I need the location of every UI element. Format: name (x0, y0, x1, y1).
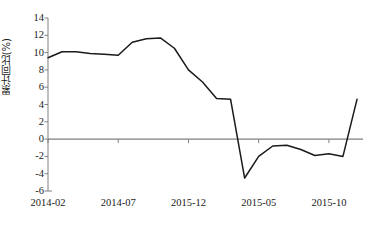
y-tick-label: -4 (20, 169, 44, 179)
y-tick-label: 8 (20, 65, 44, 75)
y-tick-label: -2 (20, 151, 44, 161)
x-tick-label: 2015-10 (297, 197, 361, 208)
x-tick-label: 2015-05 (227, 197, 291, 208)
x-tick-label: 2014-02 (16, 197, 80, 208)
y-tick-label: -6 (20, 186, 44, 196)
y-tick-label: 4 (20, 100, 44, 110)
axes (45, 18, 53, 191)
x-tick-label: 2014-07 (86, 197, 150, 208)
x-tick-label: 2015-12 (156, 197, 220, 208)
zero-baseline (48, 139, 363, 143)
y-tick-label: 0 (20, 134, 44, 144)
y-tick-label: 10 (20, 48, 44, 58)
series-line (48, 38, 357, 178)
y-axis-label: 累计同比(%) (2, 38, 18, 95)
data-series (48, 38, 357, 178)
y-tick-label: 2 (20, 117, 44, 127)
y-tick-label: 12 (20, 30, 44, 40)
figure-caption (0, 218, 370, 231)
y-tick-label: 14 (20, 13, 44, 23)
y-tick-label: 6 (20, 82, 44, 92)
chart-figure: 累计同比(%) 14121086420-2-4-6 2014-022014-07… (0, 0, 370, 231)
